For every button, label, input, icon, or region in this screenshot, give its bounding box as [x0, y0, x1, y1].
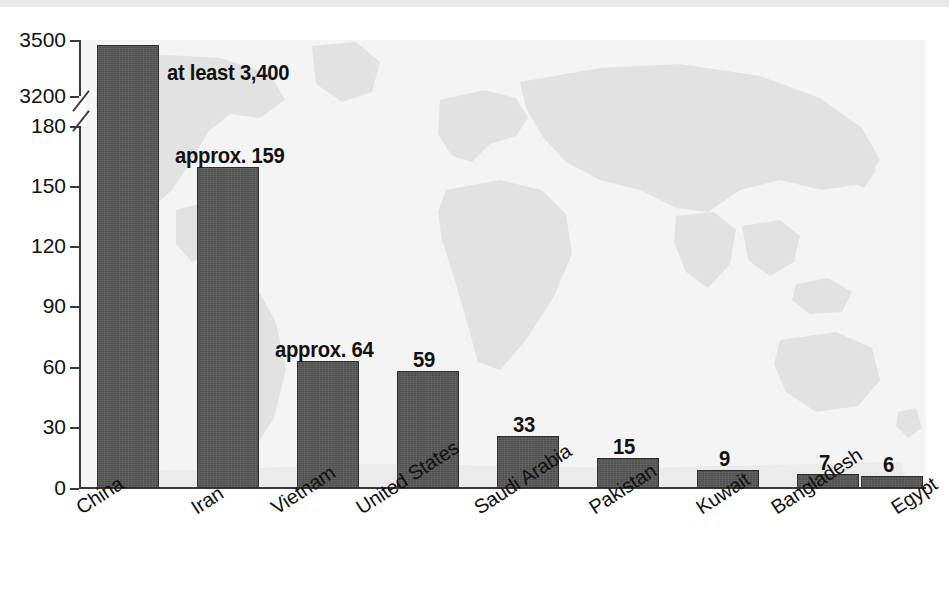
y-tick-mark [70, 488, 79, 490]
bar-value-label: approx. 64 [275, 337, 373, 363]
y-tick-mark [70, 126, 79, 128]
y-tick-label: 3200 [0, 84, 66, 108]
bar-value-label: 59 [413, 347, 435, 373]
y-tick-label: 60 [0, 355, 66, 379]
y-tick-mark [70, 40, 79, 42]
bar-value-label: approx. 159 [175, 143, 284, 169]
y-tick-mark [70, 427, 79, 429]
top-band [0, 0, 949, 7]
y-tick-label: 30 [0, 415, 66, 439]
bar-value-label: 9 [719, 446, 730, 472]
y-tick-label: 0 [0, 476, 66, 500]
bar-value-label: 33 [513, 412, 535, 438]
y-tick-label: 3500 [0, 28, 66, 52]
bar-texture [198, 168, 258, 487]
bar-chart: 350032001801501209060300 at least 3,400a… [0, 0, 949, 605]
bar-texture [98, 46, 158, 487]
bar-value-label: 15 [613, 434, 635, 460]
y-tick-mark [70, 306, 79, 308]
bar[interactable] [197, 167, 259, 488]
y-tick-label: 180 [0, 114, 66, 138]
y-tick-mark [70, 367, 79, 369]
y-tick-mark [70, 96, 79, 98]
y-tick-mark [70, 186, 79, 188]
bar-value-label: at least 3,400 [167, 60, 289, 86]
y-tick-label: 150 [0, 174, 66, 198]
bar[interactable] [97, 45, 159, 488]
y-tick-mark [70, 246, 79, 248]
y-tick-label: 120 [0, 234, 66, 258]
bar-value-label: 6 [883, 452, 894, 478]
y-tick-label: 90 [0, 294, 66, 318]
